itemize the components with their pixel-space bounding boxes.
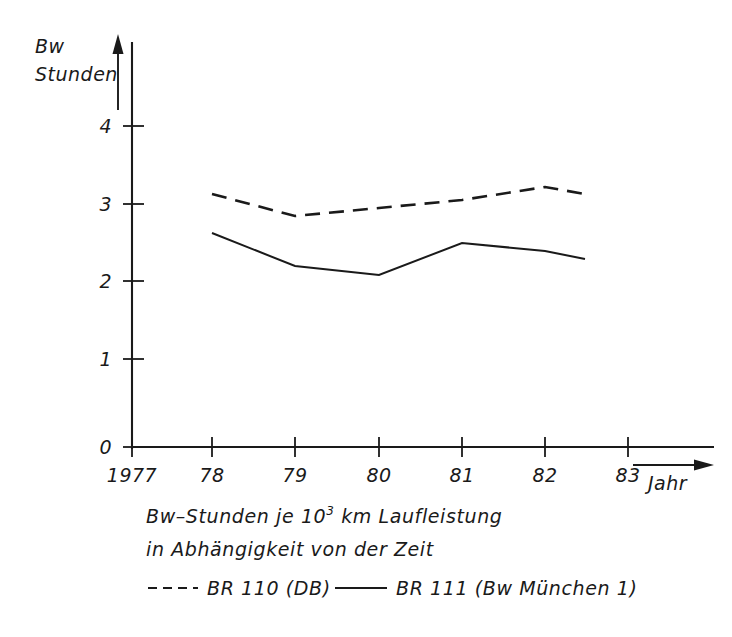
legend-label-br110: BR 110 (DB) (207, 577, 331, 599)
y-tick-label-1: 1 (99, 348, 112, 370)
caption-line1-part1: Bw–Stunden je 10 (146, 505, 326, 527)
y-tick-label-0: 0 (99, 436, 112, 458)
caption-line1-part2: km Laufleistung (335, 505, 503, 527)
y-tick-label-4: 4 (99, 115, 112, 137)
y-tick-label-3: 3 (99, 193, 112, 215)
x-tick-label-1977: 1977 (107, 464, 157, 486)
caption-line-2: in Abhängigkeit von der Zeit (146, 538, 435, 560)
x-axis-title: Jahr (644, 472, 688, 494)
x-tick-label-79: 79 (282, 464, 307, 486)
x-axis-arrow-icon (633, 460, 714, 471)
y-axis-title-line1: Bw (35, 35, 65, 57)
chart-figure: 4 3 2 1 0 Bw Stunden 1977 78 79 80 81 82… (0, 0, 732, 637)
series-br111-solid-line (212, 233, 585, 275)
y-tick-label-2: 2 (99, 270, 112, 292)
caption-line1-superscript: 3 (326, 504, 334, 518)
x-tick-label-80: 80 (366, 464, 391, 486)
legend: BR 110 (DB) BR 111 (Bw München 1) (148, 577, 637, 599)
x-tick-label-83: 83 (615, 464, 640, 486)
y-axis-ticks (123, 126, 144, 447)
x-tick-label-82: 82 (532, 464, 557, 486)
series-br110-dashed-line (212, 187, 585, 216)
line-chart-canvas: 4 3 2 1 0 Bw Stunden 1977 78 79 80 81 82… (0, 0, 732, 637)
caption-line-1: Bw–Stunden je 103 km Laufleistung (146, 504, 502, 527)
x-tick-label-81: 81 (449, 464, 474, 486)
x-tick-label-78: 78 (199, 464, 224, 486)
legend-label-br111: BR 111 (Bw München 1) (396, 577, 637, 599)
y-axis-title-line2: Stunden (35, 63, 118, 85)
